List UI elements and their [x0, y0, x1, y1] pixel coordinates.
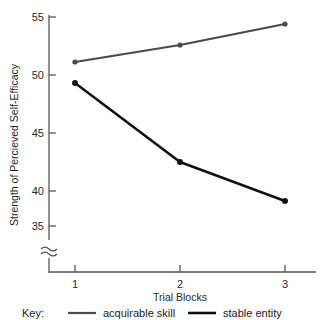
- chart-figure: 55 50 45 40 35 1 2 3 Trial Blocks Streng…: [0, 0, 320, 320]
- y-tick-label-55: 55: [32, 11, 44, 23]
- x-tick-label-3: 3: [282, 278, 288, 290]
- y-tick-label-35: 35: [32, 220, 44, 232]
- x-tick-label-2: 2: [177, 278, 183, 290]
- acquirable-skill-point-3: [282, 21, 287, 26]
- x-tick-label-1: 1: [72, 278, 78, 290]
- legend-key-label: Key:: [22, 307, 44, 319]
- stable-entity-point-3: [282, 198, 288, 204]
- y-axis-title: Strength of Percieved Self-Efficacy: [8, 63, 20, 226]
- acquirable-skill-point-2: [177, 42, 182, 47]
- y-tick-label-50: 50: [32, 69, 44, 81]
- y-tick-label-45: 45: [32, 127, 44, 139]
- stable-entity-point-2: [177, 159, 183, 165]
- stable-entity-point-1: [72, 80, 78, 86]
- x-axis-title: Trial Blocks: [153, 291, 207, 303]
- legend-label-stable-entity: stable entity: [223, 307, 282, 319]
- acquirable-skill-point-1: [72, 59, 77, 64]
- y-tick-label-40: 40: [32, 185, 44, 197]
- legend-label-acquirable-skill: acquirable skill: [103, 307, 175, 319]
- line-chart: 55 50 45 40 35 1 2 3 Trial Blocks Streng…: [0, 0, 320, 320]
